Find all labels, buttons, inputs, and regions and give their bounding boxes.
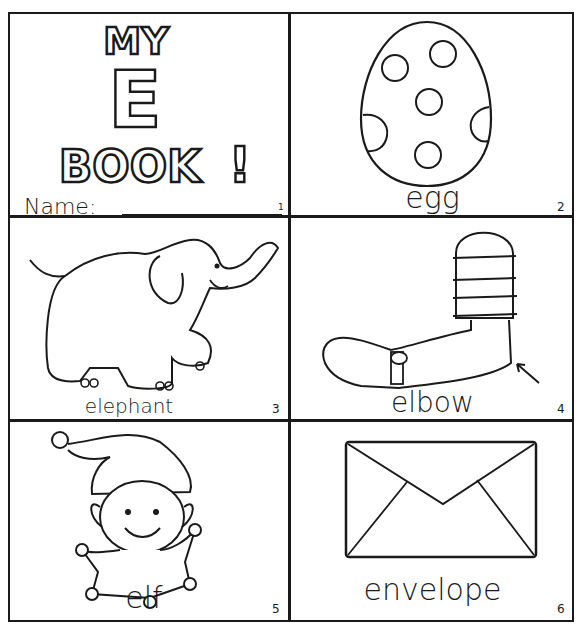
title-e: E	[108, 55, 161, 145]
cover-cell: MY E BOOK ! Name: 1	[10, 14, 288, 215]
page-word: elephant	[0, 394, 288, 418]
name-write-line[interactable]	[122, 214, 282, 216]
page-envelope: envelope 6	[291, 422, 574, 620]
name-label: Name:	[24, 194, 96, 219]
page-number: 1	[278, 202, 284, 212]
page-word: envelope	[291, 572, 574, 607]
page-word: egg	[291, 180, 574, 215]
page-elf: elf 5	[10, 422, 288, 620]
page-elephant: elephant 3	[10, 218, 288, 419]
page-word: elf	[0, 580, 288, 615]
page-number: 4	[557, 402, 565, 416]
page-number: 2	[557, 200, 565, 214]
title-book: BOOK	[59, 141, 203, 192]
title-exclaim: !	[229, 136, 252, 194]
page-number: 3	[272, 402, 280, 416]
page-egg: egg 2	[291, 14, 574, 215]
page-number: 6	[557, 602, 565, 616]
page-word: elbow	[291, 386, 574, 419]
title-art: MY E BOOK !	[10, 14, 288, 184]
page-number: 5	[272, 602, 280, 616]
page-elbow: elbow 4	[291, 218, 574, 419]
elephant-picture	[10, 218, 288, 419]
